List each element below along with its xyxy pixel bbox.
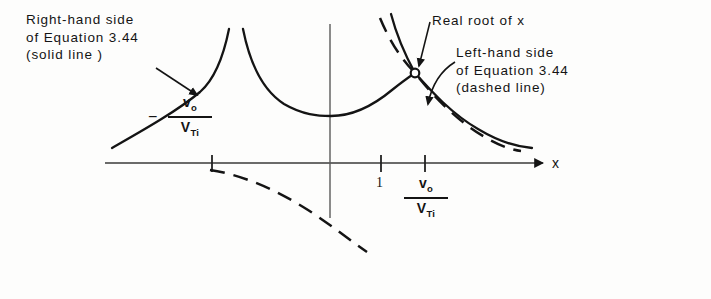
tick-neg-minus-sign: −	[148, 108, 157, 126]
tick-neg-numerator: vo	[168, 95, 212, 115]
annotation-right-hand-side: Right-hand side of Equation 3.44 (solid …	[26, 11, 139, 64]
tick-one-label: 1	[376, 175, 383, 191]
annotation-real-root: Real root of x	[432, 12, 525, 30]
tick-pos-numerator: vo	[404, 176, 448, 196]
tick-neg-denominator: VTi	[168, 120, 212, 140]
x-axis-label: x	[552, 155, 559, 173]
figure-canvas: Right-hand side of Equation 3.44 (solid …	[0, 0, 711, 299]
tick-pos-denominator: VTi	[404, 201, 448, 221]
rhs-leader-arrow	[156, 68, 197, 95]
lhs-leader-arrow	[428, 62, 455, 104]
tick-neg-v0-vti-label: vo VTi	[168, 95, 212, 140]
rhs-center-branch	[243, 29, 415, 116]
lhs-lower-left-dashed	[210, 170, 367, 252]
rhs-upper-right-branch	[391, 14, 415, 73]
real-root-marker	[411, 69, 420, 78]
tick-v0-vti-label: vo VTi	[404, 176, 448, 221]
annotation-left-hand-side: Left-hand side of Equation 3.44 (dashed …	[456, 44, 569, 97]
real-root-leader-arrow	[419, 22, 430, 66]
